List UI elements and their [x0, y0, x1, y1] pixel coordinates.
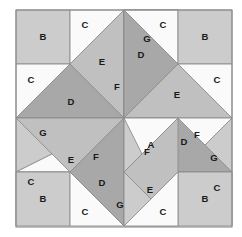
- piece-label-b-28: B: [202, 193, 209, 204]
- piece-label-f-15: F: [194, 129, 200, 140]
- piece-label-e-11: E: [174, 89, 180, 100]
- piece-label-c-25: C: [82, 206, 89, 217]
- piece-label-g-2: G: [143, 33, 150, 44]
- piece-label-f-10: F: [114, 81, 120, 92]
- piece-label-c-21: C: [214, 182, 221, 193]
- piece-label-b-24: B: [40, 193, 47, 204]
- quilt-block-figure: BCGCBCEDCDFEGFAFGECFDCDEBCGCB: [0, 0, 242, 237]
- piece-label-d-9: D: [68, 96, 75, 107]
- piece-label-g-26: G: [116, 199, 123, 210]
- piece-label-c-5: C: [28, 74, 35, 85]
- piece-label-e-17: E: [68, 154, 74, 165]
- piece-label-c-1: C: [82, 19, 89, 30]
- quilt-block-diagram: BCGCBCEDCDFEGFAFGECFDCDEBCGCB: [0, 0, 242, 237]
- piece-label-e-6: E: [99, 56, 105, 67]
- piece-label-b-4: B: [202, 31, 209, 42]
- piece-label-c-18: C: [28, 176, 35, 187]
- piece-label-c-27: C: [160, 206, 167, 217]
- piece-label-f-13: F: [93, 151, 99, 162]
- piece-label-e-23: E: [147, 184, 153, 195]
- quilt-pieces-layer: [16, 10, 232, 226]
- piece-label-d-20: D: [181, 136, 188, 147]
- piece-label-d-7: D: [138, 49, 145, 60]
- piece-label-d-22: D: [99, 177, 106, 188]
- piece-label-g-16: G: [210, 152, 217, 163]
- piece-label-g-12: G: [39, 127, 46, 138]
- piece-label-c-3: C: [160, 19, 167, 30]
- piece-label-b-0: B: [40, 31, 47, 42]
- piece-label-f-19: F: [144, 146, 150, 157]
- piece-label-c-8: C: [214, 74, 221, 85]
